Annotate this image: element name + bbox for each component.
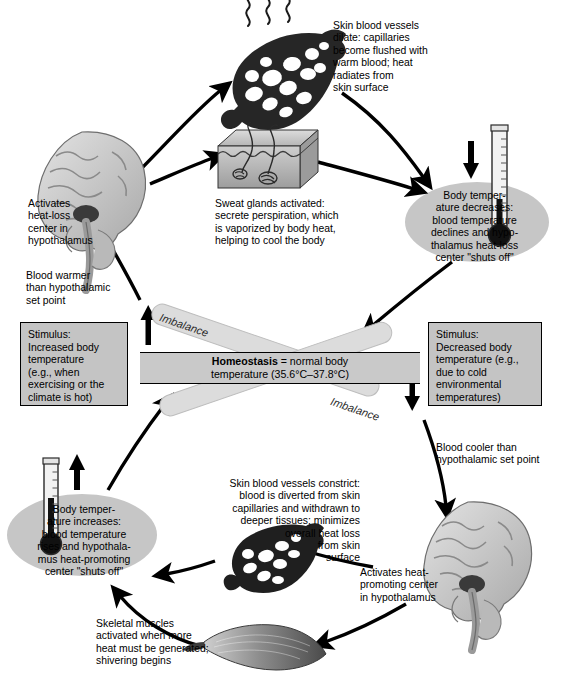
homeostasis-label: Homeostasis bbox=[212, 355, 278, 367]
stimulus-box-decreased-temperature: Stimulus: Decreased body temperature (e.… bbox=[428, 322, 542, 406]
arrow-increase-to-imbalance bbox=[108, 404, 165, 490]
label-blood-cooler: Blood cooler than hypothalamic set point bbox=[436, 442, 561, 467]
thermoregulation-diagram: Imbalance Imbalance Homeostasis = normal… bbox=[0, 0, 561, 694]
arrow-decrease-to-imbalance bbox=[372, 262, 452, 326]
skin-cross-section-icon bbox=[218, 122, 318, 188]
homeostasis-bar: Homeostasis = normal body temperature (3… bbox=[140, 352, 420, 384]
arrow-brain-to-muscle bbox=[325, 604, 406, 642]
capillary-bed-dilated-icon bbox=[221, 0, 346, 130]
up-arrow-icon bbox=[69, 454, 85, 490]
arrow-capillary-to-decrease bbox=[342, 93, 424, 178]
label-vessels-dilate: Skin blood vessels dilate: capillaries b… bbox=[333, 20, 493, 94]
stimulus-left-text: Stimulus: Increased body temperature (e.… bbox=[21, 323, 127, 411]
label-temperature-decreases: Body temper- ature decreases: blood temp… bbox=[417, 190, 532, 264]
label-blood-warmer: Blood warmer than hypothalamic set point bbox=[26, 270, 156, 307]
label-sweat-glands: Sweat glands activated: secrete perspira… bbox=[215, 198, 390, 248]
homeostasis-text: Homeostasis = normal body temperature (3… bbox=[211, 355, 349, 381]
label-skeletal-muscles: Skeletal muscles activated when more hea… bbox=[96, 618, 261, 668]
arrow-brain-to-skin bbox=[150, 158, 213, 184]
arrow-skin-to-decrease bbox=[318, 162, 414, 189]
label-vessels-constrict: Skin blood vessels constrict: blood is d… bbox=[200, 478, 360, 565]
label-activates-heat-promoting-center: Activates heat- promoting center in hypo… bbox=[360, 567, 472, 604]
stimulus-box-increased-temperature: Stimulus: Increased body temperature (e.… bbox=[20, 322, 128, 406]
down-arrow-icon bbox=[463, 141, 479, 179]
heat-radiation-icon bbox=[246, 0, 289, 26]
label-activates-heat-loss-center: Activates heat-loss center in hypothalam… bbox=[28, 198, 128, 248]
label-temperature-increases: Body temper- ature increases: blood temp… bbox=[24, 504, 144, 578]
stimulus-right-text: Stimulus: Decreased body temperature (e.… bbox=[429, 323, 541, 411]
